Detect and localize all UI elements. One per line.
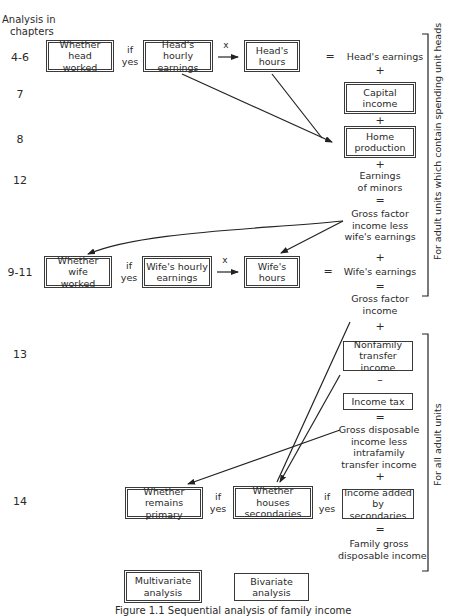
line-head-hours-to-home bbox=[272, 74, 322, 138]
text: yes bbox=[119, 56, 141, 68]
text: transfer income bbox=[344, 350, 412, 373]
text: hours bbox=[256, 56, 288, 68]
if-yes-secondaries: ifyes bbox=[316, 491, 338, 514]
text: Income added bbox=[343, 487, 413, 499]
text: secondaries bbox=[236, 508, 310, 520]
gross-factor-income-less-wife: Gross factorincome lesswife's earnings bbox=[340, 208, 420, 243]
plus-4: + bbox=[372, 251, 388, 264]
text: if bbox=[316, 491, 338, 503]
box-home-production: Homeproduction bbox=[344, 126, 416, 158]
if-yes-head: ifyes bbox=[119, 44, 141, 67]
text: Gross factor bbox=[340, 208, 420, 220]
box-whether-head-worked: Whether headworked bbox=[46, 40, 114, 72]
box-whether-houses-secondaries: Whether housessecondaries bbox=[233, 486, 313, 519]
chapter-12: 12 bbox=[0, 174, 40, 187]
text: Head's bbox=[256, 45, 288, 57]
text: income bbox=[363, 98, 398, 110]
text: Whether head bbox=[49, 39, 111, 62]
text: Earnings bbox=[340, 170, 420, 182]
text: income less bbox=[338, 436, 420, 448]
text: intrafamily bbox=[338, 447, 420, 459]
box-income-tax: Income tax bbox=[343, 393, 413, 410]
equals-head: = bbox=[322, 50, 338, 63]
text: earnings bbox=[146, 272, 208, 284]
if-yes-primary: ifyes bbox=[207, 491, 229, 514]
text: analysis bbox=[250, 587, 293, 599]
chapter-14: 14 bbox=[0, 495, 40, 508]
text: analysis bbox=[135, 587, 192, 599]
box-income-added-by-secondaries: Income addedby secondaries bbox=[342, 489, 414, 519]
equals-3: = bbox=[372, 411, 388, 424]
text: Capital bbox=[363, 87, 398, 99]
bracket-lower bbox=[422, 334, 428, 571]
text: earnings bbox=[146, 62, 210, 74]
text: disposable income bbox=[338, 550, 420, 562]
text: worked bbox=[47, 278, 109, 290]
text: wife's earnings bbox=[340, 231, 420, 243]
text: Income tax bbox=[351, 396, 404, 408]
chapter-4-6: 4-6 bbox=[0, 51, 40, 64]
text: Whether wife bbox=[47, 255, 109, 278]
equals-1: = bbox=[372, 194, 388, 207]
box-whether-wife-worked: Whether wifeworked bbox=[44, 256, 112, 288]
text: if bbox=[119, 44, 141, 56]
plus-5: + bbox=[372, 320, 388, 333]
text: by secondaries bbox=[343, 498, 413, 521]
chapters-header-line1: Analysis in bbox=[2, 14, 56, 26]
chapters-header: Analysis in chapters bbox=[2, 14, 56, 37]
equals-wife: = bbox=[320, 265, 336, 278]
text: if bbox=[118, 260, 140, 272]
equals-2: = bbox=[372, 280, 388, 293]
arrow-nonfamily-to-secondaries bbox=[280, 375, 340, 482]
earnings-of-minors: Earningsof minors bbox=[340, 170, 420, 193]
wifes-earnings: Wife's earnings bbox=[340, 266, 420, 278]
text: Bivariate bbox=[250, 576, 293, 588]
box-whether-remains-primary: Whether remainsprimary bbox=[125, 487, 203, 519]
chapter-13: 13 bbox=[0, 348, 40, 361]
text: if bbox=[207, 491, 229, 503]
chapter-8: 8 bbox=[0, 133, 40, 146]
arrow-head-hourly-to-home bbox=[182, 74, 332, 142]
times-sign-head: x bbox=[218, 40, 234, 50]
text: Wife's bbox=[258, 261, 287, 273]
arrow-to-remains-primary bbox=[188, 430, 340, 484]
box-nonfamily-transfer-income: Nonfamilytransfer income bbox=[343, 341, 413, 371]
text: Head's hourly bbox=[146, 39, 210, 62]
box-wifes-hourly-earnings: Wife's hourlyearnings bbox=[142, 256, 212, 288]
family-gross-disposable-income: Family grossdisposable income bbox=[338, 538, 420, 561]
text: income bbox=[340, 305, 420, 317]
text: production bbox=[354, 142, 405, 154]
text: income less bbox=[340, 220, 420, 232]
if-yes-wife: ifyes bbox=[118, 260, 140, 283]
figure-caption: Figure 1.1 Sequential analysis of family… bbox=[115, 605, 351, 616]
text: Whether houses bbox=[236, 485, 310, 508]
text: Home bbox=[354, 131, 405, 143]
text: of minors bbox=[340, 182, 420, 194]
text: Whether remains bbox=[128, 486, 200, 509]
chapter-7: 7 bbox=[0, 88, 40, 101]
box-wifes-hours: Wife'shours bbox=[244, 256, 300, 288]
bracket-label-lower: For all adult units bbox=[432, 403, 443, 486]
text: yes bbox=[207, 503, 229, 515]
minus: – bbox=[372, 373, 388, 386]
text: worked bbox=[49, 62, 111, 74]
gross-disposable-income-less: Gross disposableincome lessintrafamilytr… bbox=[338, 424, 420, 470]
arrow-to-whether-wife bbox=[88, 221, 343, 254]
legend-bivariate-analysis: Bivariateanalysis bbox=[234, 573, 309, 601]
bracket-label-upper: For adult units which contain spending u… bbox=[432, 23, 443, 260]
text: Gross factor bbox=[340, 293, 420, 305]
box-heads-hours: Head'shours bbox=[244, 40, 300, 72]
text: Wife's hourly bbox=[146, 261, 208, 273]
chapters-header-line2: chapters bbox=[2, 26, 56, 38]
plus-6: + bbox=[372, 470, 388, 483]
bracket-upper bbox=[422, 34, 428, 296]
plus-1: + bbox=[372, 64, 388, 77]
text: Multivariate bbox=[135, 575, 192, 587]
equals-4: = bbox=[372, 523, 388, 536]
text: transfer income bbox=[338, 459, 420, 471]
box-heads-hourly-earnings: Head's hourlyearnings bbox=[143, 40, 213, 72]
text: Nonfamily bbox=[344, 339, 412, 351]
text: hours bbox=[258, 272, 287, 284]
legend-multivariate-analysis: Multivariateanalysis bbox=[124, 570, 202, 603]
text: Gross disposable bbox=[338, 424, 420, 436]
